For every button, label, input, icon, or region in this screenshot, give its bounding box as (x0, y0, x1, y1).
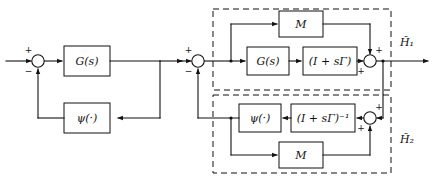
right-input-sum-sign-bottom: − (185, 66, 193, 76)
h2-group-label: H̃₂ (399, 133, 414, 146)
left-sum-sign-bottom: − (25, 66, 33, 76)
left-diagram: + − G(s) ψ(·) (6, 45, 182, 134)
right-input-sum-sign-top: + (185, 45, 193, 55)
right-block-i-plus-sgamma-label: (I + sΓ) (309, 55, 351, 68)
h1-sum-sign-top: + (375, 45, 383, 55)
right-block-psi-label: ψ(·) (250, 112, 271, 125)
left-summing-junction (32, 55, 44, 67)
h1-group-label: H̃₁ (399, 36, 414, 49)
right-block-m-bottom-label: M (294, 149, 307, 162)
right-block-m-top-label: M (294, 18, 307, 31)
left-sum-sign-top: + (25, 45, 33, 55)
h2-sum-sign-top: + (375, 102, 383, 112)
block-diagram-svg: + − G(s) ψ(·) (0, 0, 433, 181)
right-block-g-label: G(s) (256, 55, 279, 68)
right-block-i-plus-sgamma-inv-label: (I + sΓ)⁻¹ (297, 112, 350, 125)
left-block-g-label: G(s) (75, 55, 98, 68)
right-input-summing-junction (192, 55, 204, 67)
h1-summing-junction (364, 55, 376, 67)
left-block-psi-label: ψ(·) (77, 112, 98, 125)
h2-sum-sign-bottom: + (357, 123, 365, 133)
figure-canvas: + − G(s) ψ(·) (0, 0, 433, 181)
h2-summing-junction (364, 112, 376, 124)
right-diagram: + − H̃₁ M G(s) (178, 9, 428, 173)
h1-sum-sign-bottom: + (357, 66, 365, 76)
